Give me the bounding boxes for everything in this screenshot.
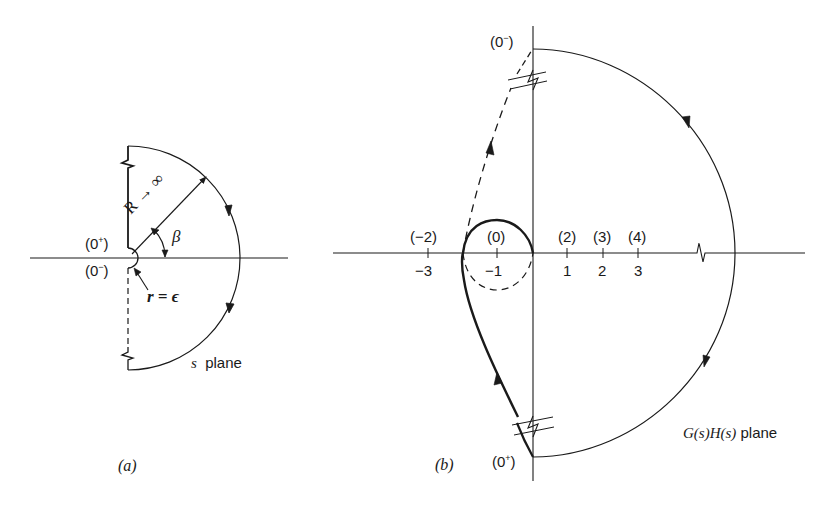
nyquist-locus-solid (517, 423, 533, 457)
tick-label-1: 1 (563, 263, 571, 278)
tick-label-3: 3 (634, 263, 642, 278)
dashed-arrow-up (486, 141, 494, 155)
bracket-label-0: (0) (487, 229, 505, 244)
gh-plane-label: G(s)H(s) plane (683, 425, 777, 441)
arc-arrow-lower-a (226, 303, 234, 313)
lower-point-label-a: (0−) (85, 263, 109, 278)
tick-label-2: 2 (598, 263, 606, 278)
caption-a: (a) (118, 458, 137, 474)
bracket-label-neg2: (−2) (410, 229, 437, 244)
epsilon-leader-arrow (134, 268, 141, 276)
epsilon-label: r = ϵ (147, 288, 179, 305)
large-arc-arrow-lower-b (703, 355, 710, 367)
caption-b: (b) (435, 457, 454, 473)
bottom-point-label-b: (0+) (492, 454, 516, 469)
tick-label-neg1: −1 (485, 263, 502, 278)
tick-label-neg3: −3 (415, 263, 432, 278)
bracket-label-2: (2) (558, 229, 576, 244)
nyquist-locus-dashed-top (517, 50, 532, 74)
bracket-label-4: (4) (628, 229, 646, 244)
figure-b-gh-plane (333, 26, 805, 481)
upper-point-label-a: (0+) (85, 236, 109, 251)
s-plane-label: s plane (191, 355, 242, 371)
top-point-label-b: (0−) (490, 34, 514, 49)
imag-axis-lower-break-a (122, 347, 133, 370)
large-arc-arrow-upper-b (682, 116, 690, 128)
beta-arrow-head-bottom (162, 250, 168, 257)
real-axis-b (333, 243, 805, 262)
beta-label: β (172, 228, 180, 245)
bracket-label-3: (3) (593, 229, 611, 244)
break-mark-top-1 (508, 72, 546, 80)
